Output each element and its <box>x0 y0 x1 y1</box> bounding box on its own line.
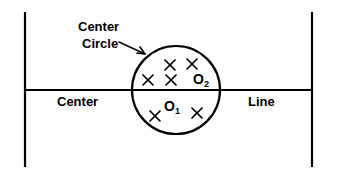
callout-label-line1: Center <box>78 20 119 33</box>
point-o1-subscript: 1 <box>175 106 180 116</box>
point-o1-base: O <box>164 98 175 114</box>
point-o2-base: O <box>193 71 204 87</box>
x-marker <box>143 75 153 85</box>
callout-arrow-icon <box>119 42 145 54</box>
x-marker <box>192 108 202 118</box>
point-label-o2: O2 <box>193 72 209 86</box>
point-o2-subscript: 2 <box>204 79 209 89</box>
x-marker <box>187 59 197 69</box>
diagram-canvas <box>0 0 339 178</box>
callout-label-line2: Circle <box>82 37 118 50</box>
x-marker <box>150 111 160 121</box>
center-circle-diagram: Center Circle Center Line O2 O1 <box>0 0 339 178</box>
x-marker <box>166 75 176 85</box>
center-axis-label: Center <box>57 95 98 108</box>
line-axis-label: Line <box>248 95 275 108</box>
x-marker <box>165 60 175 70</box>
point-label-o1: O1 <box>164 99 180 113</box>
